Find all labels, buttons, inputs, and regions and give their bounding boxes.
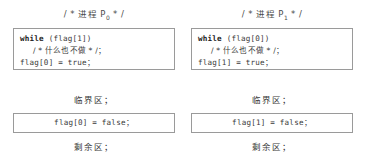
remainder-section-label-p1: 剩余区；	[186, 140, 358, 152]
process-header-text-p0: 进程 P	[78, 9, 106, 19]
code-line-comment-text-p0: / * 什么也不做 * /；	[33, 46, 106, 55]
code-line-while-p0: while (flag[1])	[20, 33, 174, 45]
process-header-suffix-p0: * /	[110, 9, 125, 19]
code-line-setflag-text-p0: flag[0] = true；	[20, 58, 95, 67]
keyword-while-p1: while	[198, 34, 222, 43]
process-header-p0: / * 进程 P0 * /	[8, 8, 180, 20]
process-header-suffix-p1: * /	[288, 9, 303, 19]
code-line-setflag-p0: flag[0] = true；	[20, 57, 174, 69]
code-line-while-rest-p0: (flag[1])	[44, 34, 92, 43]
remainder-section-label-p0: 剩余区；	[8, 140, 180, 152]
critical-section-label-p0: 临界区；	[8, 93, 180, 105]
code-line-clearflag-p1: flag[1] = false；	[192, 117, 352, 129]
process-header-prefix-p1: / *	[242, 9, 257, 19]
peterson-algorithm-figure: / * 进程 P0 * / while (flag[1]) / * 什么也不做 …	[0, 0, 365, 165]
process-header-p1: / * 进程 P1 * /	[186, 8, 358, 20]
process-header-prefix-p0: / *	[64, 9, 79, 19]
code-line-setflag-p1: flag[1] = true；	[198, 57, 352, 69]
code-line-while-rest-p1: (flag[0])	[222, 34, 270, 43]
critical-section-label-p1: 临界区；	[186, 93, 358, 105]
process-header-text-p1: 进程 P	[256, 9, 284, 19]
code-line-clearflag-p0: flag[0] = false；	[14, 117, 174, 129]
entry-section-box-p1: while (flag[0]) / * 什么也不做 * /； flag[1] =…	[191, 28, 353, 70]
code-line-comment-p0: / * 什么也不做 * /；	[20, 45, 174, 57]
keyword-while-p0: while	[20, 34, 44, 43]
code-line-setflag-text-p1: flag[1] = true；	[198, 58, 273, 67]
exit-section-box-p1: flag[1] = false；	[191, 113, 353, 133]
process-column-p1: / * 进程 P1 * / while (flag[0]) / * 什么也不做 …	[186, 0, 358, 165]
code-line-while-p1: while (flag[0])	[198, 33, 352, 45]
entry-section-box-p0: while (flag[1]) / * 什么也不做 * /； flag[0] =…	[13, 28, 175, 70]
process-column-p0: / * 进程 P0 * / while (flag[1]) / * 什么也不做 …	[8, 0, 180, 165]
exit-section-box-p0: flag[0] = false；	[13, 113, 175, 133]
code-line-comment-p1: / * 什么也不做 * /；	[198, 45, 352, 57]
code-line-comment-text-p1: / * 什么也不做 * /；	[211, 46, 284, 55]
